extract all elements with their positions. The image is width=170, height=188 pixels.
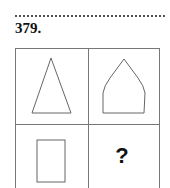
pointed-dome-shape [103, 59, 145, 113]
rectangle-shape [37, 140, 65, 182]
triangle-shape [32, 58, 71, 113]
question-mark: ? [112, 144, 132, 168]
puzzle-shapes [0, 0, 170, 188]
